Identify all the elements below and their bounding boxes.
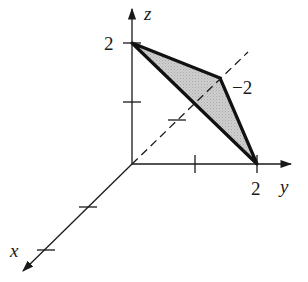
z-axis-label: z xyxy=(143,3,152,24)
3d-axes-diagram: z y x 2 2 −2 xyxy=(0,0,308,282)
x-axis xyxy=(23,164,132,271)
y-axis-label: y xyxy=(278,176,289,197)
dashed-value-label: −2 xyxy=(232,77,252,98)
y-value-label: 2 xyxy=(251,178,261,199)
z-value-label: 2 xyxy=(104,33,114,54)
x-axis-label: x xyxy=(9,240,19,261)
